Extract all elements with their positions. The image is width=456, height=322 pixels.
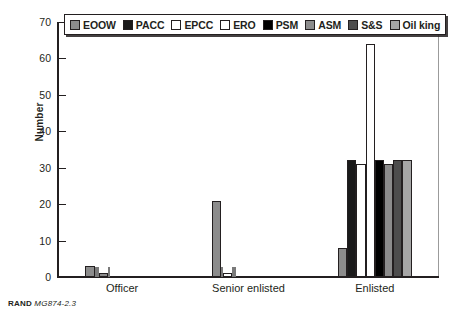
bar-group [185, 22, 311, 277]
legend-item[interactable]: EPCC [171, 19, 213, 31]
figure-bar-chart: Number 010203040506070 OfficerSenior enl… [0, 0, 456, 322]
legend-label: Oil king [403, 19, 441, 31]
legend-label: PACC [136, 19, 165, 31]
legend-swatch-icon [263, 20, 273, 30]
y-axis-tick-label: 20 [21, 199, 51, 210]
bar [366, 44, 375, 277]
figure-footer: RAND MG874-2.3 [8, 299, 76, 308]
legend-swatch-icon [171, 20, 181, 30]
legend-item[interactable]: S&S [348, 19, 382, 31]
bar-group-bars [338, 22, 412, 277]
legend-label: EOOW [83, 19, 116, 31]
bar [212, 201, 221, 278]
y-axis-tick-label: 70 [21, 17, 51, 28]
legend-swatch-icon [390, 20, 400, 30]
y-axis-tick-label: 50 [21, 90, 51, 101]
y-axis-tick-label: 60 [21, 53, 51, 64]
bar [402, 160, 411, 277]
bar-group [312, 22, 438, 277]
bar-group-bars [85, 22, 159, 277]
legend-label: S&S [361, 19, 382, 31]
y-axis-tick-label: 10 [21, 236, 51, 247]
x-axis-label-senior-enlisted: Senior enlisted [212, 282, 285, 294]
legend-label: ASM [318, 19, 341, 31]
bar [384, 164, 393, 277]
bar [99, 273, 108, 277]
legend-label: EPCC [184, 19, 213, 31]
bar-group [59, 22, 185, 277]
legend-swatch-icon [70, 20, 80, 30]
bar [85, 266, 94, 277]
x-axis-label-officer: Officer [106, 282, 138, 294]
legend-label: PSM [276, 19, 298, 31]
legend-swatch-icon [305, 20, 315, 30]
plot-area [59, 22, 438, 277]
bar [223, 273, 232, 277]
legend-item[interactable]: ERO [220, 19, 255, 31]
bar [347, 160, 356, 277]
legend-item[interactable]: ASM [305, 19, 341, 31]
footer-doc-id: MG874-2.3 [34, 299, 76, 308]
y-axis-tick-label: 40 [21, 126, 51, 137]
plot-frame-right-edge [438, 22, 439, 276]
y-axis-tick-label: 30 [21, 163, 51, 174]
legend-swatch-icon [348, 20, 358, 30]
legend-swatch-icon [220, 20, 230, 30]
legend-label: ERO [233, 19, 255, 31]
bar [109, 267, 110, 277]
legend-swatch-icon [123, 20, 133, 30]
bar [235, 267, 236, 277]
x-axis-label-enlisted: Enlisted [355, 282, 394, 294]
bar [393, 160, 402, 277]
bar-group-bars [212, 22, 286, 277]
y-axis-tick-label: 0 [21, 272, 51, 283]
footer-org: RAND [8, 299, 32, 308]
legend-item[interactable]: PACC [123, 19, 165, 31]
bar [375, 160, 384, 277]
legend-item[interactable]: Oil king [390, 19, 441, 31]
bar [338, 248, 347, 277]
legend-item[interactable]: EOOW [70, 19, 116, 31]
bar [356, 164, 365, 277]
legend: EOOWPACCEPCCEROPSMASMS&SOil king [64, 14, 446, 35]
legend-item[interactable]: PSM [263, 19, 298, 31]
